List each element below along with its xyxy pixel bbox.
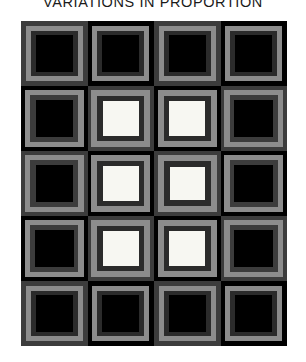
- artwork-cell: [21, 21, 88, 86]
- artwork-cell-ring: [234, 165, 273, 203]
- artwork-cell-ring: [234, 100, 273, 138]
- artwork-cell-ring: [169, 35, 206, 71]
- artwork-cell-ring: [169, 231, 205, 266]
- artwork-cell: [221, 281, 288, 346]
- artwork-cell: [154, 21, 221, 86]
- nested-squares-artwork: [21, 21, 287, 346]
- artwork-cell-ring: [36, 100, 73, 136]
- artwork-cell-ring: [169, 295, 206, 331]
- artwork-cell: [21, 86, 88, 151]
- artwork-cell-ring: [35, 230, 74, 268]
- artwork-cell-ring: [103, 231, 139, 266]
- artwork-cell-ring: [36, 35, 73, 71]
- artwork-cell: [221, 86, 288, 151]
- artwork-cell: [154, 281, 221, 346]
- artwork-cell: [221, 216, 288, 281]
- artwork-cell: [88, 281, 155, 346]
- artwork-cell-ring: [103, 166, 139, 201]
- artwork-cell: [154, 86, 221, 151]
- artwork-cell-ring: [235, 295, 272, 331]
- artwork-cell-ring: [235, 35, 272, 71]
- artwork-cell-ring: [169, 101, 205, 136]
- artwork-cell: [21, 216, 88, 281]
- artwork-cell: [154, 216, 221, 281]
- artwork-cell: [88, 216, 155, 281]
- artwork-cell: [88, 21, 155, 86]
- page-root: VARIATIONS IN PROPORTION: [0, 0, 306, 362]
- artwork-cell: [221, 21, 288, 86]
- artwork-cell: [21, 281, 88, 346]
- artwork-cell: [154, 151, 221, 216]
- artwork-cell: [88, 86, 155, 151]
- artwork-cell-ring: [36, 295, 73, 331]
- artwork-cell-ring: [170, 167, 205, 201]
- artwork-cell-ring: [103, 101, 139, 136]
- artwork-cell-ring: [234, 230, 273, 268]
- artwork-cell: [21, 151, 88, 216]
- artwork-cell: [221, 151, 288, 216]
- page-title: VARIATIONS IN PROPORTION: [0, 0, 306, 10]
- artwork-cell-ring: [36, 165, 73, 201]
- artwork-cell-ring: [102, 35, 139, 71]
- artwork-cell: [88, 151, 155, 216]
- artwork-cell-ring: [102, 295, 139, 331]
